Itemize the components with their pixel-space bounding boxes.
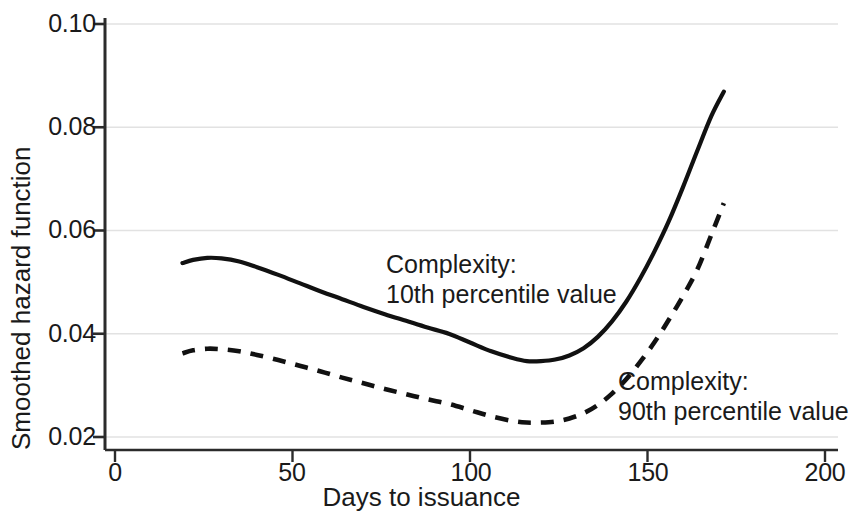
annotation-90th-line1: Complexity: bbox=[618, 366, 849, 396]
series-line-10th-percentile bbox=[182, 92, 723, 362]
y-tick-label-0-08: 0.08 bbox=[6, 112, 96, 141]
annotation-90th-percentile: Complexity: 90th percentile value bbox=[618, 366, 849, 426]
y-axis-title: Smoothed hazard function bbox=[6, 146, 37, 450]
annotation-10th-line1: Complexity: bbox=[386, 249, 617, 279]
annotation-10th-line2: 10th percentile value bbox=[386, 279, 617, 309]
annotation-90th-line2: 90th percentile value bbox=[618, 396, 849, 426]
x-axis-title: Days to issuance bbox=[0, 482, 843, 513]
annotation-10th-percentile: Complexity: 10th percentile value bbox=[386, 249, 617, 309]
y-tick-label-0-10: 0.10 bbox=[6, 9, 96, 38]
